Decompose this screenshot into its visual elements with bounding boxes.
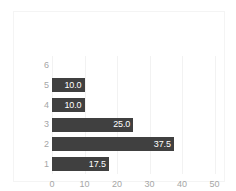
bar-row: 10.0 (52, 76, 221, 96)
y-tick-label-4: 4 (44, 95, 49, 115)
y-axis-tick-labels: 654321 (27, 56, 49, 174)
y-tick-label-3: 3 (44, 115, 49, 135)
x-tick-label-0: 0 (49, 177, 54, 191)
bar-3[interactable]: 25.0 (52, 118, 133, 132)
bar-row: 37.5 (52, 135, 221, 155)
bar-value-label: 25.0 (113, 120, 130, 129)
bar-value-label: 37.5 (154, 140, 171, 149)
bar-value-label: 10.0 (64, 101, 81, 110)
x-tick-label-30: 30 (144, 177, 154, 191)
bar-value-label: 17.5 (89, 160, 106, 169)
plot-area: 10.010.025.037.517.5 (52, 56, 221, 174)
bar-1[interactable]: 17.5 (52, 157, 109, 171)
chart-frame: 10.010.025.037.517.5 654321 01020304050 (13, 11, 225, 182)
y-tick-label-6: 6 (44, 56, 49, 76)
bar-2[interactable]: 37.5 (52, 137, 174, 151)
bar-row (52, 56, 221, 76)
bar-5[interactable]: 10.0 (52, 78, 85, 92)
x-tick-label-20: 20 (112, 177, 122, 191)
bar-4[interactable]: 10.0 (52, 98, 85, 112)
x-axis-tick-labels: 01020304050 (52, 177, 221, 191)
y-tick-label-1: 1 (44, 154, 49, 174)
x-tick-label-50: 50 (209, 177, 219, 191)
x-tick-label-10: 10 (79, 177, 89, 191)
bar-value-label: 10.0 (64, 81, 81, 90)
bar-row: 25.0 (52, 115, 221, 135)
chart-screenshot: 10.010.025.037.517.5 654321 01020304050 (0, 0, 236, 191)
x-tick-label-40: 40 (177, 177, 187, 191)
bar-row: 17.5 (52, 154, 221, 174)
y-tick-label-2: 2 (44, 135, 49, 155)
bar-6[interactable] (52, 59, 55, 73)
y-tick-label-5: 5 (44, 76, 49, 96)
bar-row: 10.0 (52, 95, 221, 115)
